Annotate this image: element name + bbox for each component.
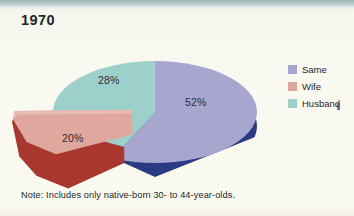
scan-artifact-mark <box>337 103 340 110</box>
legend-swatch-wife <box>288 82 297 91</box>
legend-item-wife[interactable]: Wife <box>288 78 350 95</box>
legend-label-husband: Husband <box>302 98 340 109</box>
figure-panel: 1970 52% 28% 20% Same Wife Husband <box>0 0 354 216</box>
pie-exploded-group <box>0 20 286 185</box>
legend-item-husband[interactable]: Husband <box>288 95 350 112</box>
pie-label-same: 52% <box>185 96 207 108</box>
pie-label-husband: 28% <box>98 74 120 86</box>
chart-note: Note: Includes only native-born 30- to 4… <box>21 190 235 200</box>
decorative-top-bar <box>0 0 354 7</box>
pie-label-wife: 20% <box>62 132 84 144</box>
chart-legend: Same Wife Husband <box>288 61 350 112</box>
decorative-top-bar-shade <box>0 7 354 10</box>
legend-label-wife: Wife <box>302 81 321 92</box>
legend-swatch-husband <box>288 99 297 108</box>
page-bottom-fade <box>0 206 354 216</box>
legend-item-same[interactable]: Same <box>288 61 350 78</box>
legend-swatch-same <box>288 65 297 74</box>
legend-label-same: Same <box>302 64 327 75</box>
pie-chart: 52% 28% 20% <box>0 20 286 185</box>
